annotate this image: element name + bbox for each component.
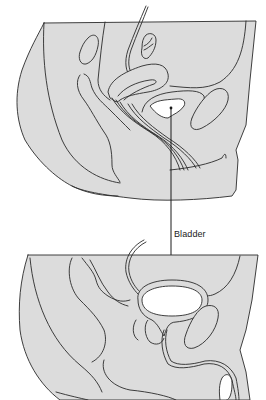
bladder-label: Bladder: [174, 229, 206, 239]
female-pelvis-section: [17, 6, 256, 200]
pelvis-anatomy-diagram: Bladder: [0, 0, 266, 400]
male-pelvis-section: [19, 240, 258, 400]
male-bladder-cavity: [142, 286, 202, 316]
